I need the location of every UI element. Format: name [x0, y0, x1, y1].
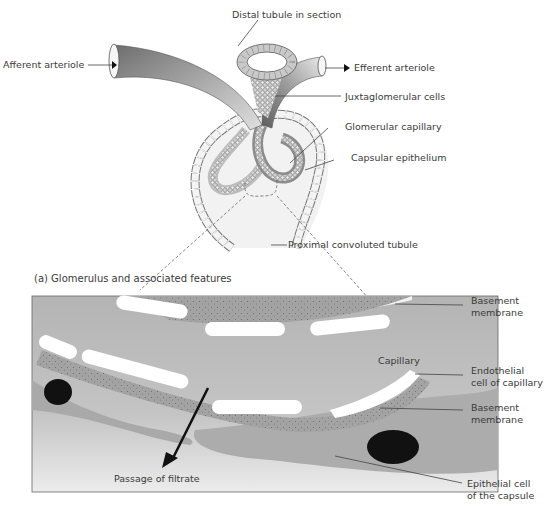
label-glomerular-capillary: Glomerular capillary [345, 121, 442, 133]
label-capsular-epithelium: Capsular epithelium [351, 152, 447, 164]
label-capillary: Capillary [378, 355, 420, 367]
epithelial-nucleus [367, 430, 419, 464]
label-afferent-arteriole: Afferent arteriole [3, 59, 84, 71]
label-proximal-tubule: Proximal convoluted tubule [288, 239, 418, 251]
label-passage-of-filtrate: Passage of filtrate [114, 473, 200, 485]
figure-caption: (a) Glomerulus and associated features [34, 273, 232, 284]
distal-tubule [237, 44, 297, 80]
label-juxtaglomerular-cells: Juxtaglomerular cells [345, 91, 445, 103]
label-basement-membrane-bottom: Basement membrane [471, 402, 523, 426]
efferent-arrow-icon [344, 64, 350, 72]
label-epithelial-cell: Epithelial cell of the capsule [467, 478, 534, 502]
label-endothelial-cell: Endothelial cell of capillary [471, 365, 543, 389]
endothelial-nucleus [44, 379, 72, 405]
label-distal-tubule: Distal tubule in section [232, 9, 341, 21]
glomerulus-diagram [0, 0, 546, 507]
label-basement-membrane-top: Basement membrane [471, 295, 523, 319]
label-efferent-arteriole: Efferent arteriole [354, 62, 435, 74]
detail-panel [32, 294, 498, 492]
